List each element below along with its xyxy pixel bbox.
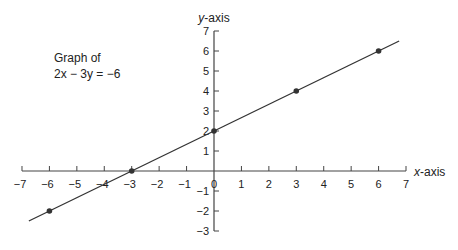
y-tick-label: 1 xyxy=(203,145,209,157)
caption-equation: 2x − 3y = −6 xyxy=(54,66,120,82)
x-tick-label: −7 xyxy=(14,178,27,190)
y-tick-label: −2 xyxy=(196,205,209,217)
y-tick-label: −3 xyxy=(196,225,209,237)
data-point xyxy=(376,48,382,54)
chart-caption: Graph of 2x − 3y = −6 xyxy=(54,50,120,82)
x-tick-label: 1 xyxy=(238,178,244,190)
x-tick-label: −3 xyxy=(123,178,136,190)
x-tick-label: 4 xyxy=(321,178,327,190)
axis-labels: y-axisx-axis xyxy=(197,11,445,179)
y-tick-label: 4 xyxy=(203,85,209,97)
x-tick-label: −1 xyxy=(178,178,191,190)
y-tick-label: 6 xyxy=(203,45,209,57)
x-axis-label: x-axis xyxy=(413,165,445,179)
y-tick-label: 3 xyxy=(203,105,209,117)
x-tick-label: 2 xyxy=(266,178,272,190)
y-tick-label: 7 xyxy=(203,25,209,37)
data-point xyxy=(47,208,53,214)
y-tick-label: 5 xyxy=(203,65,209,77)
x-tick-label: 0 xyxy=(211,178,217,190)
data-point xyxy=(211,128,217,134)
data-point xyxy=(129,168,135,174)
x-tick-label: −4 xyxy=(96,178,109,190)
x-tick-label: −2 xyxy=(151,178,164,190)
x-tick-label: 6 xyxy=(376,178,382,190)
x-tick-label: 3 xyxy=(293,178,299,190)
caption-line-1: Graph of xyxy=(54,50,120,66)
x-tick-label: −6 xyxy=(41,178,54,190)
x-tick-label: 5 xyxy=(348,178,354,190)
data-point xyxy=(293,88,299,94)
y-axis-label: y-axis xyxy=(197,11,229,25)
x-tick-label: 7 xyxy=(403,178,409,190)
y-tick-label: −1 xyxy=(196,185,209,197)
x-tick-label: −5 xyxy=(69,178,82,190)
line-chart: −7−6−5−4−3−2−101234567−3−2−11234567 y-ax… xyxy=(0,0,458,250)
